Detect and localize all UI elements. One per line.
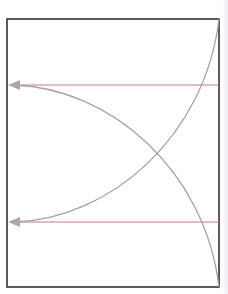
- diagram-frame: [7, 19, 219, 287]
- diagram-canvas: [0, 0, 228, 294]
- diagram-svg: [0, 0, 228, 294]
- edge-shade: [222, 0, 228, 294]
